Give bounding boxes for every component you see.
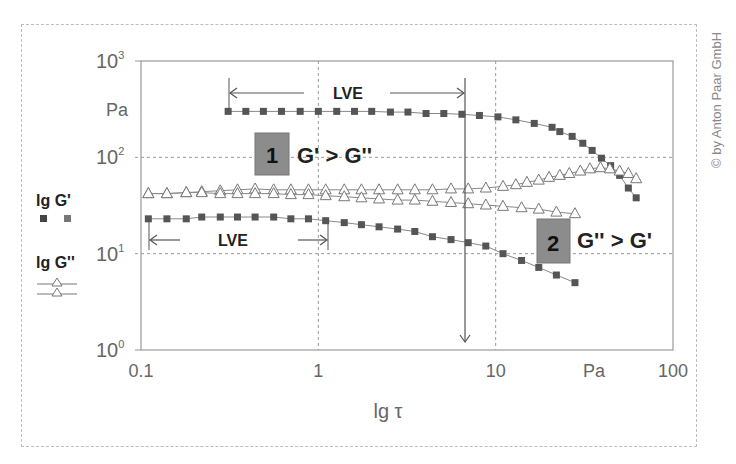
square-marker xyxy=(549,124,556,131)
triangle-marker xyxy=(463,198,474,208)
square-marker xyxy=(387,109,394,116)
square-marker xyxy=(260,108,267,115)
y-tick-label: 102 xyxy=(96,145,124,168)
legend-square-marker xyxy=(64,215,71,222)
square-marker xyxy=(351,108,358,115)
lve-label-upper: LVE xyxy=(333,85,363,102)
square-marker xyxy=(297,108,304,115)
y-tick-label: 101 xyxy=(96,242,124,265)
triangle-marker xyxy=(427,195,438,205)
badge-1-text: G' > G'' xyxy=(297,143,372,168)
triangle-marker xyxy=(533,203,544,213)
lve-label-lower: LVE xyxy=(218,232,248,249)
legend-triangle-marker xyxy=(52,288,62,296)
square-marker xyxy=(252,214,259,221)
square-marker xyxy=(571,279,578,286)
square-marker xyxy=(217,214,224,221)
triangle-marker xyxy=(374,193,385,203)
x-tick-label: 0.1 xyxy=(128,361,153,381)
badge-2-text: G'' > G' xyxy=(577,228,652,253)
square-marker xyxy=(448,236,455,243)
square-marker xyxy=(305,215,312,222)
triangle-marker xyxy=(446,183,457,193)
square-marker xyxy=(225,108,232,115)
axes xyxy=(135,61,673,350)
legend-gp-label: lg G' xyxy=(36,192,71,209)
triangle-marker xyxy=(143,188,154,198)
square-marker xyxy=(440,110,447,117)
rheology-chart: 100101102103Pa0.1110100Palg τ LVELVE1G' … xyxy=(0,0,736,464)
square-marker xyxy=(404,109,411,116)
x-tick-label: 100 xyxy=(658,361,688,381)
y-unit-label: Pa xyxy=(106,100,129,120)
x-tick-label: 10 xyxy=(486,361,506,381)
square-marker xyxy=(579,140,586,147)
square-marker xyxy=(598,155,605,162)
square-marker xyxy=(287,215,294,222)
square-marker xyxy=(278,108,285,115)
triangle-marker xyxy=(480,182,491,192)
triangle-marker xyxy=(161,188,172,198)
square-marker xyxy=(183,215,190,222)
triangle-marker xyxy=(427,184,438,194)
grid-lines xyxy=(135,61,673,350)
triangle-marker xyxy=(181,187,192,197)
triangle-marker xyxy=(392,194,403,204)
triangle-marker xyxy=(569,208,580,218)
x-tick-label: 1 xyxy=(313,361,323,381)
square-marker xyxy=(234,214,241,221)
square-marker xyxy=(394,226,401,233)
square-marker xyxy=(270,214,277,221)
triangle-marker xyxy=(392,184,403,194)
legend-gpp-label: lg G'' xyxy=(36,254,75,271)
triangle-marker xyxy=(516,202,527,212)
square-marker xyxy=(500,250,507,257)
square-marker xyxy=(531,120,538,127)
square-marker xyxy=(535,264,542,271)
square-marker xyxy=(589,147,596,154)
square-marker xyxy=(553,272,560,279)
square-marker xyxy=(429,233,436,240)
square-marker xyxy=(358,221,365,228)
plot-area-border xyxy=(141,61,673,350)
square-marker xyxy=(556,128,563,135)
square-marker xyxy=(341,219,348,226)
x-axis-title: lg τ xyxy=(373,400,402,422)
square-marker xyxy=(376,223,383,230)
square-marker xyxy=(333,108,340,115)
badge-2-number: 2 xyxy=(547,231,559,256)
triangle-marker xyxy=(584,163,595,173)
square-marker xyxy=(465,239,472,246)
y-tick-label: 100 xyxy=(96,338,124,361)
square-marker xyxy=(145,215,152,222)
legend-square-marker xyxy=(40,215,47,222)
square-marker xyxy=(569,133,576,140)
square-marker xyxy=(476,112,483,119)
square-marker xyxy=(458,111,465,118)
square-marker xyxy=(633,194,640,201)
square-marker xyxy=(242,108,249,115)
square-marker xyxy=(482,243,489,250)
square-marker xyxy=(411,228,418,235)
triangle-marker xyxy=(463,183,474,193)
square-marker xyxy=(518,257,525,264)
y-tick-label: 103 xyxy=(96,49,124,72)
square-marker xyxy=(368,108,375,115)
triangle-marker xyxy=(595,162,606,172)
badge-1-number: 1 xyxy=(266,143,278,168)
x-unit-label: Pa xyxy=(583,361,606,381)
square-marker xyxy=(163,215,170,222)
triangle-marker xyxy=(480,199,491,209)
triangle-marker xyxy=(409,184,420,194)
square-marker xyxy=(625,185,632,192)
square-marker xyxy=(198,214,205,221)
legend: lg G'lg G'' xyxy=(36,192,77,296)
triangle-marker xyxy=(409,194,420,204)
square-marker xyxy=(494,113,501,120)
legend-triangle-marker xyxy=(52,278,62,286)
square-marker xyxy=(423,110,430,117)
square-marker xyxy=(512,116,519,123)
triangle-marker xyxy=(446,196,457,206)
square-marker xyxy=(315,108,322,115)
triangle-marker xyxy=(498,200,509,210)
